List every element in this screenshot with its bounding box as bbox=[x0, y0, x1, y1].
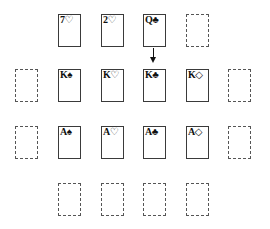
empty-card-slot[interactable] bbox=[228, 126, 251, 159]
empty-card-slot[interactable] bbox=[143, 183, 166, 216]
card-k-of-diamonds[interactable]: K◇ bbox=[186, 69, 209, 102]
card-rank: A bbox=[60, 126, 67, 137]
card-rank: A bbox=[145, 126, 152, 137]
empty-card-slot[interactable] bbox=[15, 126, 38, 159]
card-k-of-spades[interactable]: K♠ bbox=[58, 69, 81, 102]
card-label: Q♣ bbox=[145, 15, 158, 25]
card-label: A♡ bbox=[103, 127, 118, 137]
card-label: 2♡ bbox=[103, 15, 116, 25]
empty-card-slot[interactable] bbox=[228, 69, 251, 102]
clubs-suit-icon: ♣ bbox=[152, 69, 158, 80]
empty-card-slot[interactable] bbox=[58, 183, 81, 216]
card-a-of-clubs[interactable]: A♣ bbox=[143, 126, 166, 159]
empty-card-slot[interactable] bbox=[186, 14, 209, 47]
card-a-of-spades[interactable]: A♠ bbox=[58, 126, 81, 159]
card-label: A♣ bbox=[145, 127, 158, 137]
hearts-suit-icon: ♡ bbox=[65, 14, 73, 25]
card-label: A◇ bbox=[188, 127, 202, 137]
card-label: K♣ bbox=[145, 70, 158, 80]
card-label: 7♡ bbox=[60, 15, 73, 25]
card-q-of-clubs[interactable]: Q♣ bbox=[143, 14, 166, 47]
diamonds-suit-icon: ◇ bbox=[195, 69, 202, 80]
card-7-of-hearts[interactable]: 7♡ bbox=[58, 14, 81, 47]
card-label: A♠ bbox=[60, 127, 72, 137]
card-a-of-diamonds[interactable]: A◇ bbox=[186, 126, 209, 159]
empty-card-slot[interactable] bbox=[101, 183, 124, 216]
card-rank: A bbox=[103, 126, 110, 137]
empty-card-slot[interactable] bbox=[186, 183, 209, 216]
hearts-suit-icon: ♡ bbox=[110, 69, 118, 80]
empty-card-slot[interactable] bbox=[15, 69, 38, 102]
diamonds-suit-icon: ◇ bbox=[195, 126, 202, 137]
card-k-of-clubs[interactable]: K♣ bbox=[143, 69, 166, 102]
arrow-down-icon bbox=[150, 57, 156, 63]
clubs-suit-icon: ♣ bbox=[152, 14, 158, 25]
hearts-suit-icon: ♡ bbox=[108, 14, 116, 25]
hearts-suit-icon: ♡ bbox=[110, 126, 118, 137]
spades-suit-icon: ♠ bbox=[67, 69, 72, 80]
card-a-of-hearts[interactable]: A♡ bbox=[101, 126, 124, 159]
card-label: K◇ bbox=[188, 70, 202, 80]
card-label: K♠ bbox=[60, 70, 72, 80]
clubs-suit-icon: ♣ bbox=[152, 126, 158, 137]
card-2-of-hearts[interactable]: 2♡ bbox=[101, 14, 124, 47]
card-k-of-hearts[interactable]: K♡ bbox=[101, 69, 124, 102]
card-rank: A bbox=[188, 126, 195, 137]
spades-suit-icon: ♠ bbox=[67, 126, 72, 137]
card-label: K♡ bbox=[103, 70, 119, 80]
